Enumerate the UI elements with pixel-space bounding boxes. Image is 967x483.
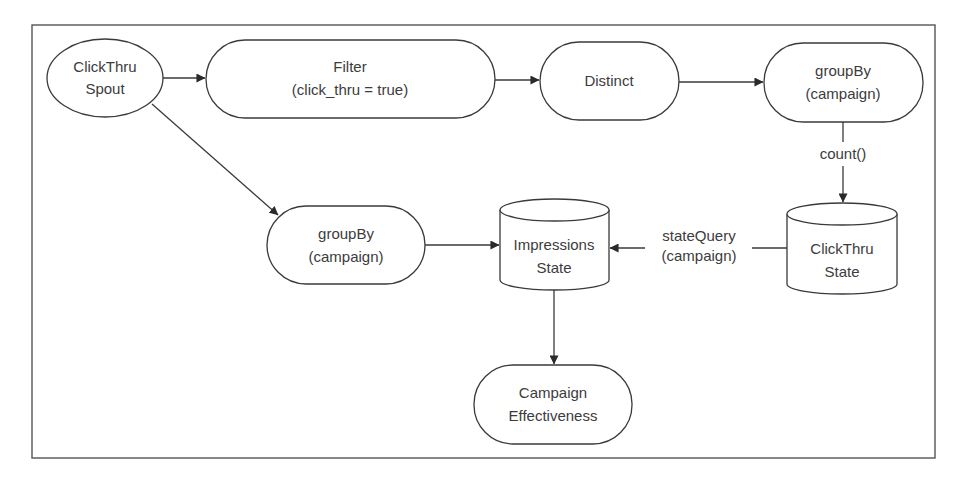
node-filter: Filter (click_thru = true) — [206, 40, 495, 118]
node-clickthru-state-line2: State — [824, 263, 859, 280]
node-clickthru-spout-line2: Spout — [85, 80, 125, 97]
node-groupby-top-line1: groupBy — [815, 62, 871, 79]
node-distinct-line1: Distinct — [584, 72, 634, 89]
node-filter-line1: Filter — [333, 58, 366, 75]
node-impressions-state: Impressions State — [500, 199, 609, 290]
node-groupby-top-line2: (campaign) — [805, 85, 880, 102]
dataflow-diagram: count() stateQuery (campaign) ClickThru … — [0, 0, 967, 483]
node-groupby-mid-line1: groupBy — [318, 225, 374, 242]
node-campaign-effectiveness-line2: Effectiveness — [509, 407, 598, 424]
node-clickthru-spout: ClickThru Spout — [47, 39, 163, 117]
node-clickthru-spout-line1: ClickThru — [73, 58, 136, 75]
node-distinct: Distinct — [540, 42, 679, 120]
node-campaign-effectiveness: Campaign Effectiveness — [474, 365, 632, 444]
edge-spout-to-groupby-mid — [152, 104, 278, 215]
node-groupby-mid-line2: (campaign) — [308, 248, 383, 265]
node-impressions-state-line2: State — [536, 259, 571, 276]
node-impressions-state-line1: Impressions — [514, 236, 595, 253]
node-campaign-effectiveness-line1: Campaign — [519, 384, 587, 401]
edge-label-statequery: stateQuery — [662, 227, 736, 244]
edge-label-count: count() — [820, 145, 867, 162]
node-filter-line2: (click_thru = true) — [292, 81, 408, 98]
edge-label-statequery-arg: (campaign) — [661, 247, 736, 264]
node-clickthru-state: ClickThru State — [787, 203, 897, 294]
node-clickthru-state-line1: ClickThru — [810, 240, 873, 257]
node-groupby-top: groupBy (campaign) — [764, 43, 923, 122]
node-groupby-mid: groupBy (campaign) — [267, 206, 425, 284]
